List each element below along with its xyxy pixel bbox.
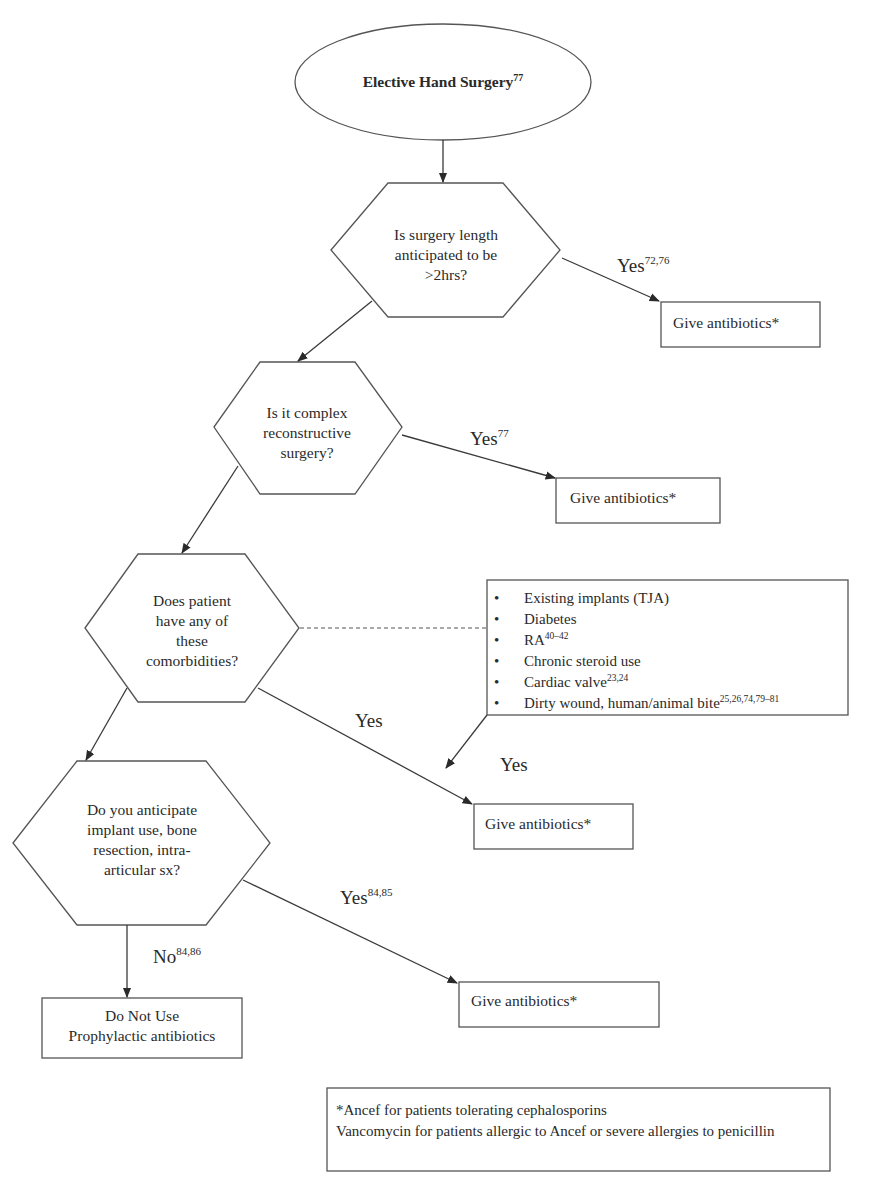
edge-yes-text: Yes [355, 710, 383, 731]
edge-yes-text: Yes [340, 887, 368, 908]
comorbidity-list: •Existing implants (TJA) •Diabetes •RA40… [488, 588, 848, 714]
start-node: Elective Hand Surgery77 [320, 72, 566, 92]
edge-label-q3-yes: Yes [355, 710, 383, 732]
comorbidity-text: Chronic steroid use [524, 653, 641, 669]
footnote-line-1: *Ancef for patients tolerating cephalosp… [336, 1100, 774, 1121]
comorbidity-text: Dirty wound, human/animal bite [524, 695, 720, 711]
comorbidity-item: •Cardiac valve23,24 [488, 672, 848, 693]
edge-yes-text: Yes [500, 754, 528, 775]
edge-label-q4-yes: Yes84,85 [340, 887, 392, 909]
edge-label-list-yes: Yes [500, 754, 528, 776]
edge-yes-text: Yes [470, 428, 498, 449]
edge-no-ref: 84,86 [176, 945, 201, 957]
bullet-icon: • [494, 651, 499, 672]
bullet-icon: • [494, 630, 499, 651]
do-not-use-line: Prophylactic antibiotics [42, 1026, 242, 1046]
decision-4-line: resection, intra- [62, 840, 222, 860]
decision-1-line: anticipated to be [366, 245, 526, 265]
decision-3-line: Does patient [122, 591, 262, 611]
connector-q3-yes [258, 688, 472, 804]
bullet-icon: • [494, 693, 499, 714]
outcome-do-not-use: Do Not Use Prophylactic antibiotics [42, 1006, 242, 1046]
start-node-ref: 77 [513, 72, 523, 83]
footnote: *Ancef for patients tolerating cephalosp… [336, 1100, 774, 1142]
comorbidity-ref: 23,24 [607, 673, 628, 683]
comorbidity-item: •Chronic steroid use [488, 651, 848, 672]
decision-1-line: >2hrs? [366, 265, 526, 285]
outcome-give-antibiotics-3: Give antibiotics* [485, 815, 591, 833]
decision-1-text: Is surgery length anticipated to be >2hr… [366, 225, 526, 285]
decision-2-line: Is it complex [232, 403, 382, 423]
outcome-give-antibiotics-4: Give antibiotics* [471, 992, 577, 1010]
edge-yes-ref: 84,85 [368, 886, 393, 898]
connector-list-yes [446, 715, 487, 768]
connector-q2-no [182, 466, 238, 553]
edge-no-text: No [153, 946, 176, 967]
bullet-icon: • [494, 672, 499, 693]
comorbidity-ref: 25,26,74,79–81 [720, 694, 779, 704]
footnote-line-2: Vancomycin for patients allergic to Ance… [336, 1121, 774, 1142]
decision-3-line: comorbidities? [122, 651, 262, 671]
comorbidity-item: •Dirty wound, human/animal bite25,26,74,… [488, 693, 848, 714]
connector-q1-no [298, 301, 372, 361]
comorbidity-text: Cardiac valve [524, 674, 607, 690]
decision-3-text: Does patient have any of these comorbidi… [122, 591, 262, 671]
decision-3-line: these [122, 631, 262, 651]
decision-4-line: implant use, bone [62, 820, 222, 840]
edge-yes-text: Yes [617, 255, 645, 276]
comorbidity-text: Diabetes [524, 611, 576, 627]
outcome-give-antibiotics-1: Give antibiotics* [673, 314, 779, 332]
comorbidity-item: •Existing implants (TJA) [488, 588, 848, 609]
bullet-icon: • [494, 588, 499, 609]
decision-4-line: articular sx? [62, 860, 222, 880]
edge-label-q1-yes: Yes72,76 [617, 255, 669, 277]
do-not-use-line: Do Not Use [42, 1006, 242, 1026]
comorbidity-ref: 40–42 [545, 631, 569, 641]
decision-3-line: have any of [122, 611, 262, 631]
edge-label-q4-no: No84,86 [153, 946, 201, 968]
comorbidity-text: Existing implants (TJA) [524, 590, 669, 606]
decision-1-line: Is surgery length [366, 225, 526, 245]
decision-2-text: Is it complex reconstructive surgery? [232, 403, 382, 463]
comorbidity-item: •Diabetes [488, 609, 848, 630]
comorbidity-text: RA [524, 632, 545, 648]
decision-4-text: Do you anticipate implant use, bone rese… [62, 800, 222, 880]
outcome-give-antibiotics-2: Give antibiotics* [570, 489, 676, 507]
start-node-label: Elective Hand Surgery [363, 73, 514, 90]
connector-q3-no [86, 688, 127, 760]
edge-yes-ref: 72,76 [645, 254, 670, 266]
decision-4-line: Do you anticipate [62, 800, 222, 820]
comorbidity-item: •RA40–42 [488, 630, 848, 651]
decision-2-line: reconstructive [232, 423, 382, 443]
edge-label-q2-yes: Yes77 [470, 428, 509, 450]
bullet-icon: • [494, 609, 499, 630]
edge-yes-ref: 77 [498, 427, 509, 439]
decision-2-line: surgery? [232, 443, 382, 463]
